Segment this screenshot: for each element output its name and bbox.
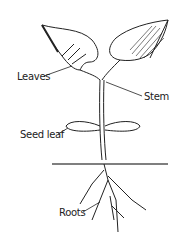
label-seed-leaf: Seed leaf [20,129,64,140]
label-roots: Roots [59,207,85,218]
label-stem: Stem [144,91,169,102]
roots [80,164,146,232]
stem [100,80,106,160]
seed-leaf-left [66,122,100,132]
label-leaves: Leaves [17,71,50,82]
seed-leaf-right [105,122,140,132]
plant-diagram [0,0,176,244]
